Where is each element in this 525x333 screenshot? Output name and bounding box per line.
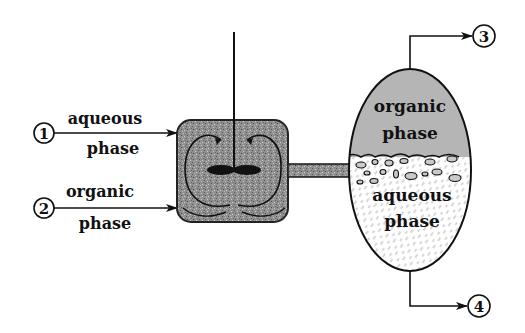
transfer-pipe xyxy=(288,164,350,177)
stream-1-label-line2: phase xyxy=(87,139,139,158)
stream-number-3: 3 xyxy=(479,28,489,46)
mixer-settler-diagram: 1 aqueous phase 2 organic phase xyxy=(0,0,525,333)
mixer-tank xyxy=(177,32,288,222)
settler-upper-label-line2: phase xyxy=(382,123,438,143)
stream-1-label-line1: aqueous xyxy=(68,109,143,128)
stream-2-inlet: 2 organic phase xyxy=(34,182,177,233)
settler-lower-label-line2: phase xyxy=(384,211,440,231)
arrow-icon xyxy=(410,271,467,306)
arrow-icon xyxy=(410,36,472,70)
stream-number-4: 4 xyxy=(474,298,484,316)
settler-upper-label-line1: organic xyxy=(374,96,446,116)
stream-3-outlet: 3 xyxy=(410,25,495,70)
settler-vessel: organic phase aqueous phase xyxy=(345,65,475,277)
settler-lower-label-line1: aqueous xyxy=(372,185,451,205)
stream-number-1: 1 xyxy=(39,125,49,143)
stream-2-label-line1: organic xyxy=(66,182,134,201)
stream-2-label-line2: phase xyxy=(79,214,131,233)
stream-4-outlet: 4 xyxy=(410,271,490,317)
stream-number-2: 2 xyxy=(39,200,49,218)
stream-1-inlet: 1 aqueous phase xyxy=(34,109,177,158)
